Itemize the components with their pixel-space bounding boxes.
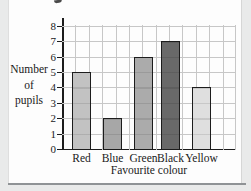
y-axis-tick	[57, 72, 62, 73]
plot-area: 012345678	[62, 18, 236, 150]
v-gridline	[223, 25, 224, 150]
v-gridline	[235, 25, 236, 150]
y-tick-label: 6	[34, 51, 56, 64]
y-axis-tick	[57, 118, 62, 119]
y-axis-tick	[57, 103, 62, 104]
y-axis-tick	[57, 41, 62, 42]
y-tick-label: 4	[34, 81, 56, 94]
bar-chart-figure: Number of pupils 012345678 Favourite col…	[0, 0, 251, 191]
x-category-label: Yellow	[172, 152, 232, 164]
bar-green	[134, 57, 153, 150]
bar-yellow	[192, 87, 211, 150]
v-gridline	[129, 25, 130, 150]
y-axis-line	[62, 18, 64, 150]
v-gridline	[156, 25, 157, 150]
y-tick-label: 7	[34, 35, 56, 48]
bottom-rule-divider	[8, 183, 246, 185]
y-tick-label: 5	[34, 66, 56, 79]
y-axis-tick	[57, 26, 62, 27]
y-axis-tick	[57, 149, 62, 150]
y-tick-label: 3	[34, 97, 56, 110]
bar-black	[161, 41, 180, 150]
y-axis-tick	[57, 87, 62, 88]
v-gridline	[182, 25, 183, 150]
y-tick-label: 1	[34, 128, 56, 141]
y-tick-label: 8	[34, 20, 56, 33]
y-tick-label: 2	[34, 112, 56, 125]
x-axis-title: Favourite colour	[62, 164, 236, 176]
y-axis-tick	[57, 134, 62, 135]
bar-red	[72, 72, 91, 150]
bar-blue	[103, 118, 122, 150]
y-axis-tick	[57, 57, 62, 58]
